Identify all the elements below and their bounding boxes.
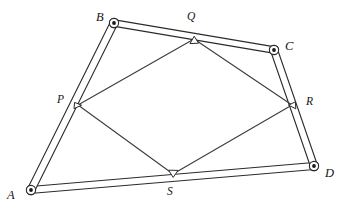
- bar-AB: [26, 18, 118, 194]
- bar-AB-body: [28, 21, 118, 191]
- pivot-dot-D: [312, 164, 316, 168]
- inner-quadrilateral-pqrs: [78, 39, 292, 174]
- point-label-R: R: [306, 96, 313, 108]
- vertex-label-C: C: [285, 40, 294, 53]
- pivot-dot-B: [112, 21, 116, 25]
- geometry-figure: A B C D P Q R S: [0, 0, 347, 215]
- edge-SP: [78, 105, 173, 174]
- pivot-dot-C: [272, 48, 276, 52]
- point-label-P: P: [57, 94, 64, 106]
- figure-canvas: [0, 0, 347, 215]
- vertex-label-D: D: [325, 167, 334, 180]
- edge-PQ: [78, 39, 194, 105]
- point-label-S: S: [167, 186, 173, 198]
- vertex-label-A: A: [7, 189, 15, 202]
- pivot-dot-A: [29, 188, 33, 192]
- vertex-label-B: B: [96, 11, 104, 24]
- edge-RS: [173, 105, 292, 174]
- point-label-Q: Q: [187, 11, 196, 23]
